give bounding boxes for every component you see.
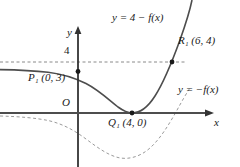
x-axis-arrow [205, 109, 214, 116]
math-figure: y = 4 − f(x) R₁ (6, 4) y = −f(x) P₁ (0, … [0, 0, 240, 167]
y-axis-arrow [75, 26, 82, 34]
label-point-q: Q₁ (4, 0) [108, 117, 146, 128]
point-marker-q [130, 111, 135, 116]
label-transformed-curve: y = 4 − f(x) [112, 12, 164, 23]
point-marker-r [170, 60, 175, 65]
label-point-p: P₁ (0, 3) [28, 72, 65, 83]
y-tick-label-4: 4 [64, 45, 70, 56]
y-axis-label: y [67, 27, 72, 38]
x-axis-label: x [214, 117, 219, 128]
point-marker-p [76, 69, 81, 74]
label-reflected-curve: y = −f(x) [178, 84, 219, 95]
label-point-r: R₁ (6, 4) [178, 35, 215, 46]
origin-label: O [62, 97, 70, 108]
curve-reflected-dashed [0, 88, 190, 158]
